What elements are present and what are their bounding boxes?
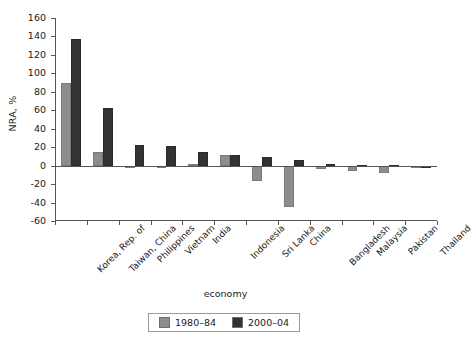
x-axis-category-labels: Korea, Rep. ofTaiwan, ChinaPhilippinesVi…	[55, 223, 437, 293]
y-tick-mark	[51, 203, 55, 204]
y-tick-mark	[51, 147, 55, 148]
bar	[166, 146, 176, 165]
x-tick-mark	[437, 221, 438, 225]
y-tick-label: 40	[4, 124, 46, 134]
bar	[103, 108, 113, 165]
legend-item[interactable]: 2000–04	[232, 317, 289, 328]
bar	[71, 39, 81, 165]
legend-label: 2000–04	[248, 317, 289, 328]
y-tick-mark	[51, 184, 55, 185]
y-tick-label: 100	[4, 68, 46, 78]
bar	[198, 152, 208, 166]
x-axis-title: economy	[0, 288, 451, 299]
y-axis-line	[55, 18, 56, 221]
legend-item[interactable]: 1980–84	[159, 317, 216, 328]
y-tick-label: 80	[4, 87, 46, 97]
y-tick-mark	[51, 18, 55, 19]
y-tick-label: -40	[4, 198, 46, 208]
y-tick-mark	[51, 73, 55, 74]
y-tick-label: -20	[4, 179, 46, 189]
legend-swatch-icon	[159, 317, 170, 328]
y-tick-mark	[51, 92, 55, 93]
legend-label: 1980–84	[175, 317, 216, 328]
y-tick-label: 140	[4, 31, 46, 41]
bar	[252, 166, 262, 182]
bar	[220, 155, 230, 165]
bar	[284, 166, 294, 208]
chart-legend: 1980–842000–04	[148, 313, 300, 332]
zero-baseline	[55, 166, 437, 167]
y-tick-label: 0	[4, 161, 46, 171]
y-tick-mark	[51, 129, 55, 130]
x-category-label: India	[211, 223, 234, 246]
y-tick-mark	[51, 36, 55, 37]
y-tick-label: 160	[4, 13, 46, 23]
x-category-label: Thailand	[438, 223, 472, 257]
y-tick-mark	[51, 110, 55, 111]
plot-area: 160140120100806040200-20-40-60	[55, 18, 437, 221]
bar	[379, 166, 389, 173]
x-category-label: Indonesia	[249, 223, 287, 261]
x-category-label: Pakistan	[406, 223, 440, 257]
y-tick-label: 60	[4, 105, 46, 115]
bar	[230, 155, 240, 166]
y-tick-label: 120	[4, 50, 46, 60]
bar	[262, 157, 272, 165]
legend-swatch-icon	[232, 317, 243, 328]
y-tick-label: 20	[4, 142, 46, 152]
bar	[135, 145, 145, 165]
bar	[61, 83, 71, 166]
bar	[93, 152, 103, 166]
y-tick-mark	[51, 55, 55, 56]
y-tick-label: -60	[4, 216, 46, 226]
